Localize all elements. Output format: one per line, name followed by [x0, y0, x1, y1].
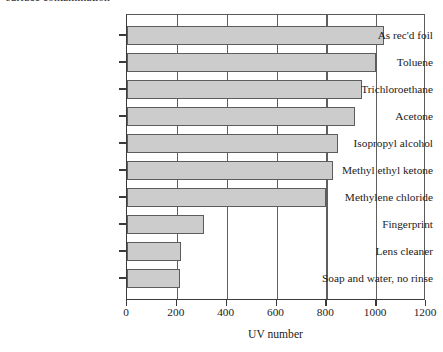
y-category-label: Acetone	[317, 110, 443, 122]
x-tick-label-400: 400	[203, 306, 249, 318]
y-category-label-text: As rec'd foil	[378, 29, 443, 41]
bar	[127, 269, 180, 288]
y-tick-mark	[119, 61, 126, 62]
x-tick-label-0: 0	[103, 306, 149, 318]
y-category-label: Soap and water, no rinse	[317, 272, 443, 284]
y-category-label: Fingerprint	[317, 218, 443, 230]
y-category-label-text: Trichloroethane	[361, 83, 443, 95]
y-category-label-text: Fingerprint	[382, 218, 443, 230]
x-tick-label-800: 800	[302, 306, 348, 318]
x-tick-label-600: 600	[253, 306, 299, 318]
y-tick-mark	[119, 142, 126, 143]
y-category-label-text: Lens cleaner	[376, 245, 443, 257]
y-tick-mark	[119, 196, 126, 197]
y-category-label-text: Methylene chloride	[345, 191, 443, 203]
y-category-label: Methylene chloride	[317, 191, 443, 203]
x-axis-title: UV number	[126, 328, 425, 341]
x-tick-label-1200: 1200	[402, 306, 443, 318]
bar	[127, 188, 326, 207]
y-category-label: Trichloroethane	[317, 83, 443, 95]
y-tick-mark	[119, 115, 126, 116]
bar	[127, 215, 204, 234]
bar	[127, 242, 181, 261]
y-tick-mark	[119, 277, 126, 278]
y-tick-mark	[119, 169, 126, 170]
x-tick-label-1000: 1000	[352, 306, 398, 318]
y-category-label-text: Toluene	[397, 56, 443, 68]
y-category-label: Toluene	[317, 56, 443, 68]
y-tick-mark	[119, 34, 126, 35]
y-category-label: Methyl ethyl ketone	[317, 164, 443, 176]
y-tick-mark	[119, 250, 126, 251]
y-category-label-text: Methyl ethyl ketone	[342, 164, 443, 176]
bar-chart-figure: As rec'd foilTolueneTrichloroethaneAceto…	[0, 0, 443, 352]
y-category-label: Lens cleaner	[317, 245, 443, 257]
y-tick-mark	[119, 223, 126, 224]
y-tick-mark	[119, 88, 126, 89]
bar	[127, 161, 333, 180]
x-tick-label-200: 200	[153, 306, 199, 318]
y-category-label-text: Acetone	[395, 110, 443, 122]
y-category-label-text: Isopropyl alcohol	[354, 137, 443, 149]
y-category-label: Isopropyl alcohol	[317, 137, 443, 149]
bar	[127, 134, 338, 153]
y-category-label-text: Soap and water, no rinse	[322, 272, 443, 284]
y-category-label: As rec'd foil	[317, 29, 443, 41]
